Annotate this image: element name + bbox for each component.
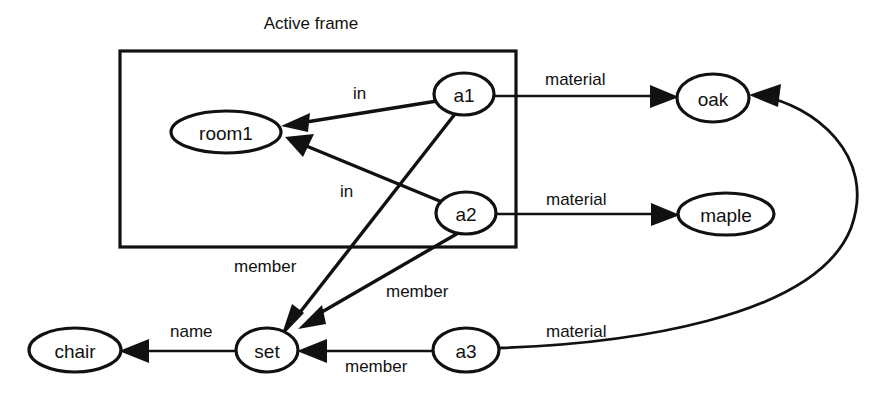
node-label-maple: maple	[700, 205, 752, 226]
edge-label-material-a3: material	[546, 322, 606, 341]
node-a1[interactable]: a1	[434, 73, 494, 115]
arrowhead-icon	[650, 85, 679, 108]
node-label-a1: a1	[453, 85, 474, 106]
edge-a2-material-maple: material	[496, 190, 680, 227]
node-label-chair: chair	[54, 341, 96, 362]
edge-label-name: name	[170, 322, 213, 341]
arrowhead-icon	[281, 113, 310, 132]
node-a3[interactable]: a3	[433, 328, 499, 372]
diagram-canvas: Active frame in in material material	[0, 0, 881, 402]
node-maple[interactable]: maple	[678, 193, 774, 235]
node-oak[interactable]: oak	[677, 74, 749, 122]
edge-a1-material-oak: material	[494, 70, 679, 109]
arrowhead-icon	[651, 203, 680, 226]
arrowhead-icon	[297, 339, 327, 363]
node-chair[interactable]: chair	[29, 328, 121, 372]
edge-a3-member-set: member	[297, 339, 432, 376]
active-frame-label: Active frame	[264, 14, 358, 33]
edge-set-name-chair: name	[119, 322, 236, 364]
node-label-set: set	[254, 341, 280, 362]
node-label-a3: a3	[455, 341, 476, 362]
node-label-room1: room1	[199, 123, 253, 144]
edge-label-member-a3: member	[345, 357, 408, 376]
arrowhead-icon	[119, 339, 149, 363]
node-label-oak: oak	[698, 89, 729, 110]
edge-label-in-a2: in	[340, 182, 353, 201]
node-label-a2: a2	[455, 204, 476, 225]
edge-a1-in-room1: in	[281, 84, 437, 133]
semantic-network-diagram: Active frame in in material material	[0, 0, 881, 402]
edge-a2-in-room1: in	[285, 134, 442, 202]
edge-label-material-a1: material	[545, 70, 605, 89]
node-a2[interactable]: a2	[436, 192, 496, 234]
edge-label-material-a2: material	[546, 190, 606, 209]
edge-label-member-a1: member	[234, 257, 297, 276]
node-set[interactable]: set	[236, 328, 298, 372]
node-room1[interactable]: room1	[171, 111, 281, 153]
edge-label-in-a1: in	[353, 84, 366, 103]
edge-label-member-a2: member	[386, 282, 449, 301]
arrowhead-icon	[749, 84, 781, 107]
